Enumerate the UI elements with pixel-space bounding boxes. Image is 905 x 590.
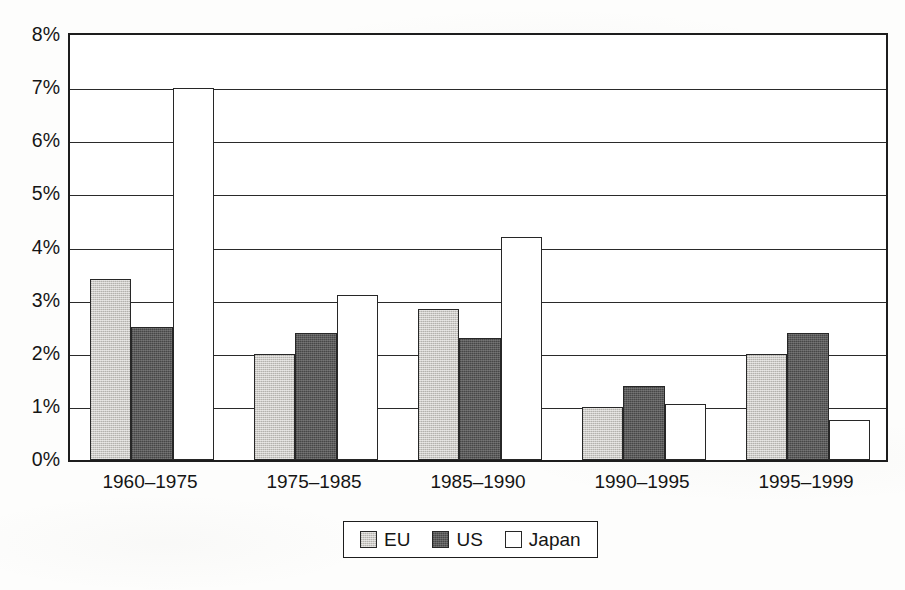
gridline-5 [70,195,886,196]
legend-entry-eu: EU [360,530,410,549]
y-axis-tick-label: 0% [14,450,60,470]
plot-area [68,33,888,462]
legend-entry-japan: Japan [505,530,581,549]
gridline-2 [70,355,886,356]
legend-entry-us: US [432,530,482,549]
legend-swatch-eu-icon [360,531,377,548]
legend-swatch-japan-icon [505,531,522,548]
gridline-1 [70,408,886,409]
gridline-4 [70,249,886,250]
x-axis-category-label: 1960–1975 [68,472,232,493]
x-axis-category-label: 1975–1985 [232,472,396,493]
legend-label: EU [384,530,410,549]
gridline-7 [70,89,886,90]
bar-chart-figure: 0%1%2%3%4%5%6%7%8% 1960–19751975–1985198… [0,0,905,590]
x-axis-category-label: 1995–1999 [724,472,888,493]
y-axis-tick-label: 1% [14,397,60,417]
gridline-3 [70,302,886,303]
legend-label: Japan [529,530,581,549]
legend-swatch-us-icon [432,531,449,548]
x-axis-category-labels: 1960–19751975–19851985–19901990–19951995… [68,472,888,502]
y-axis-tick-label: 7% [14,78,60,98]
y-axis-tick-label: 3% [14,291,60,311]
chart-legend: EUUSJapan [343,521,598,558]
gridline-6 [70,142,886,143]
y-axis-tick-label: 5% [14,185,60,205]
x-axis-category-label: 1990–1995 [560,472,724,493]
x-axis-category-label: 1985–1990 [396,472,560,493]
y-axis-tick-label: 8% [14,25,60,45]
y-axis: 0%1%2%3%4%5%6%7%8% [8,33,60,462]
y-axis-tick-label: 4% [14,238,60,258]
y-axis-tick-label: 2% [14,344,60,364]
y-axis-tick-label: 6% [14,132,60,152]
legend-label: US [456,530,482,549]
